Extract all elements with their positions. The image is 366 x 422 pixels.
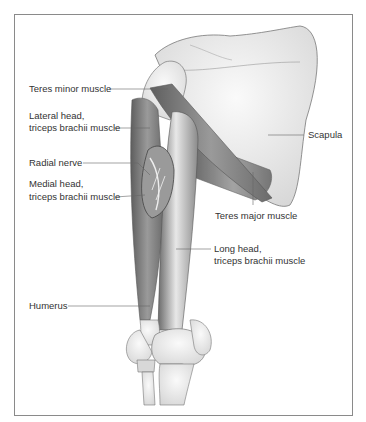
radius-shaft xyxy=(142,372,155,405)
label-long-head-line1: Long head, xyxy=(214,243,262,255)
radius-head xyxy=(137,360,155,372)
label-medial-head-line2: triceps brachii muscle xyxy=(29,191,120,203)
label-lateral-head-line1: Lateral head, xyxy=(29,110,84,122)
label-lateral-head-line2: triceps brachii muscle xyxy=(29,122,120,134)
label-long-head-line2: triceps brachii muscle xyxy=(214,255,305,267)
ulna-shaft xyxy=(159,364,194,405)
label-medial-head-line1: Medial head, xyxy=(29,178,83,190)
arm-anatomy-illustration xyxy=(0,0,366,422)
label-scapula: Scapula xyxy=(308,129,342,141)
label-humerus: Humerus xyxy=(29,300,68,312)
label-teres-major-muscle: Teres major muscle xyxy=(215,210,297,222)
label-teres-minor-muscle: Teres minor muscle xyxy=(29,83,111,95)
long-head-shape xyxy=(158,112,198,330)
label-radial-nerve: Radial nerve xyxy=(29,157,82,169)
